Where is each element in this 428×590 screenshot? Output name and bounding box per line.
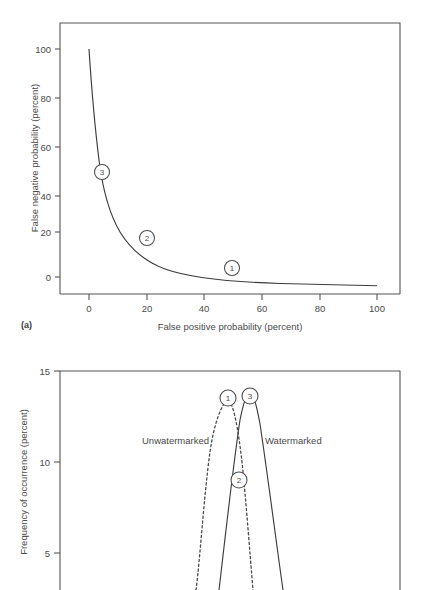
marker-label-3: 3 <box>100 168 105 177</box>
x-tick-label-40: 40 <box>199 303 210 314</box>
y-tick-label-10: 10 <box>39 457 50 468</box>
panel-b-marker-3: 3 <box>242 388 258 404</box>
panel-b-unwatermarked-curve <box>196 399 253 590</box>
panel-a: 100 80 60 40 20 0 0 20 40 60 80 100 <box>21 23 400 332</box>
panel-a-roc-curve <box>89 49 377 286</box>
panel-b-y-ticks <box>54 371 60 553</box>
x-tick-label-80: 80 <box>315 303 326 314</box>
y-tick-label-40: 40 <box>40 191 51 202</box>
x-tick-label-60: 60 <box>257 303 268 314</box>
panel-b-y-tick-labels: 15 10 5 <box>39 366 50 559</box>
panel-a-label: (a) <box>21 320 32 330</box>
marker-label-2: 2 <box>237 476 242 485</box>
figure-svg: 100 80 60 40 20 0 0 20 40 60 80 100 <box>0 0 428 590</box>
y-tick-label-20: 20 <box>40 227 51 238</box>
series-label-unwatermarked: Unwatermarked <box>142 435 209 446</box>
panel-b: 15 10 5 1 3 2 Unwatermarked Watermarked … <box>18 366 400 590</box>
figure-container: 100 80 60 40 20 0 0 20 40 60 80 100 <box>0 0 428 590</box>
y-tick-label-5: 5 <box>45 548 50 559</box>
panel-a-y-ticks <box>55 49 60 277</box>
marker-label-1: 1 <box>226 394 231 403</box>
y-tick-label-60: 60 <box>40 142 51 153</box>
series-label-watermarked: Watermarked <box>265 435 322 446</box>
panel-a-x-tick-labels: 0 20 40 60 80 100 <box>86 303 385 314</box>
x-tick-label-20: 20 <box>142 303 153 314</box>
panel-b-marker-1: 1 <box>220 390 236 406</box>
panel-a-x-ticks <box>89 294 377 300</box>
panel-a-marker-3: 3 <box>95 165 110 180</box>
panel-b-watermarked-curve <box>219 392 283 590</box>
x-tick-label-0: 0 <box>86 303 91 314</box>
panel-a-marker-1: 1 <box>225 261 240 276</box>
panel-b-y-axis-title: Frequency of occurrence (percent) <box>18 409 29 555</box>
marker-label-2: 2 <box>145 234 150 243</box>
panel-a-plot-frame <box>60 23 400 294</box>
panel-a-x-axis-title: False positive probability (percent) <box>158 321 303 332</box>
y-tick-label-80: 80 <box>40 93 51 104</box>
y-tick-label-100: 100 <box>35 44 51 55</box>
panel-a-marker-2: 2 <box>140 231 155 246</box>
panel-b-marker-2: 2 <box>231 472 247 488</box>
y-tick-label-15: 15 <box>39 366 50 377</box>
marker-label-3: 3 <box>248 392 253 401</box>
panel-a-y-axis-title: False negative probability (percent) <box>29 84 40 232</box>
marker-label-1: 1 <box>230 264 235 273</box>
x-tick-label-100: 100 <box>369 303 385 314</box>
y-tick-label-0: 0 <box>46 272 51 283</box>
